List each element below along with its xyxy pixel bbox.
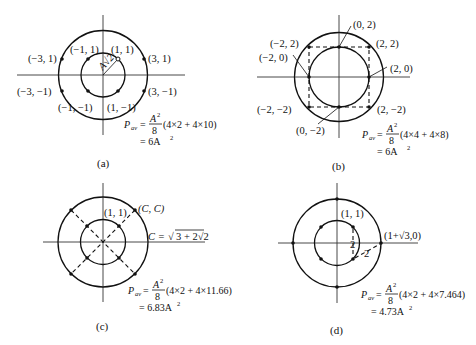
svg-text:8: 8 bbox=[388, 295, 393, 306]
leader-line bbox=[339, 26, 351, 47]
svg-text:P: P bbox=[361, 129, 368, 140]
panel-caption: (b) bbox=[332, 160, 345, 173]
point bbox=[85, 224, 89, 228]
point bbox=[291, 241, 295, 245]
formula: P av = A 2 8 (4×4 + 4×8) = 6A 2 bbox=[361, 121, 449, 157]
point-label: (−2, 0) bbox=[259, 52, 288, 64]
point-label: (−2, −2) bbox=[257, 104, 292, 116]
point bbox=[142, 57, 146, 61]
point bbox=[351, 225, 355, 229]
point-label: (1+√3,0) bbox=[384, 230, 422, 242]
point bbox=[319, 257, 323, 261]
svg-text:= 6A: = 6A bbox=[377, 146, 398, 157]
svg-text:= 4.73A: = 4.73A bbox=[371, 306, 405, 317]
point bbox=[367, 105, 371, 109]
distance-label: 2 bbox=[350, 239, 355, 250]
svg-text:2: 2 bbox=[409, 304, 412, 311]
point-label: (2, 2) bbox=[376, 38, 399, 50]
point-label: (−1, −1) bbox=[58, 102, 93, 114]
svg-text:2: 2 bbox=[393, 281, 396, 288]
point-label: (−3, 1) bbox=[28, 53, 57, 65]
panel-c: (1, 1) (C, C) C = √ 3 + 2√2 P av = A 2 8… bbox=[43, 183, 232, 333]
svg-text:P: P bbox=[360, 289, 367, 300]
point bbox=[133, 272, 137, 276]
svg-text:av: av bbox=[368, 294, 374, 301]
svg-text:C =: C = bbox=[148, 231, 165, 242]
point bbox=[60, 89, 64, 93]
svg-text:=: = bbox=[143, 285, 149, 296]
point-label: (C, C) bbox=[138, 203, 165, 215]
svg-text:av: av bbox=[131, 124, 137, 131]
distance-label: 2 bbox=[364, 248, 369, 259]
point-label: (1, 1) bbox=[341, 208, 364, 220]
point-label: (−1, 1) bbox=[70, 44, 99, 56]
svg-text:A: A bbox=[149, 113, 157, 124]
svg-text:2: 2 bbox=[160, 277, 163, 284]
svg-text:P: P bbox=[123, 119, 130, 130]
svg-text:= 6A: = 6A bbox=[140, 136, 161, 147]
panel-caption: (d) bbox=[330, 324, 343, 337]
point-label: (1, −1) bbox=[107, 102, 136, 114]
panel-d: 2 2 (1, 1) (1+√3,0) P av = A 2 8 (4×2 + … bbox=[278, 183, 465, 337]
svg-text:(4×2 + 4×10): (4×2 + 4×10) bbox=[163, 119, 217, 131]
svg-text:8: 8 bbox=[152, 125, 157, 136]
point bbox=[351, 257, 355, 261]
panel-caption: (c) bbox=[96, 320, 109, 333]
point bbox=[307, 105, 311, 109]
point bbox=[86, 89, 90, 93]
point-label: (1, 1) bbox=[111, 44, 134, 56]
panel-caption: (a) bbox=[97, 157, 110, 170]
svg-text:2: 2 bbox=[177, 300, 180, 307]
svg-text:2: 2 bbox=[407, 144, 410, 151]
svg-text:=: = bbox=[376, 289, 382, 300]
point-label: (3, −1) bbox=[148, 86, 177, 98]
point bbox=[116, 89, 120, 93]
svg-text:= 6.83A: = 6.83A bbox=[139, 302, 173, 313]
svg-text:(4×2 + 4×7.464): (4×2 + 4×7.464) bbox=[399, 289, 465, 301]
point-label: (0, 2) bbox=[353, 19, 376, 31]
svg-text:P: P bbox=[127, 285, 134, 296]
svg-text:=: = bbox=[140, 119, 146, 130]
svg-text:8: 8 bbox=[389, 135, 394, 146]
svg-text:=: = bbox=[377, 129, 383, 140]
point bbox=[319, 225, 323, 229]
formula: P av = A 2 8 (4×2 + 4×7.464) = 4.73A 2 bbox=[360, 281, 465, 317]
point bbox=[69, 272, 73, 276]
point-label: (0, −2) bbox=[296, 125, 325, 137]
point bbox=[117, 224, 121, 228]
point-label: (3, 1) bbox=[148, 53, 171, 65]
svg-text:√: √ bbox=[168, 231, 174, 242]
constant-c-definition: C = √ 3 + 2√2 bbox=[148, 230, 209, 242]
svg-text:A: A bbox=[152, 279, 160, 290]
point bbox=[60, 57, 64, 61]
svg-text:8: 8 bbox=[155, 291, 160, 302]
signal-constellations-figure: (−1, 1) (1, 1) (−1, −1) (1, −1) (−3, 1) … bbox=[0, 0, 476, 345]
svg-text:A: A bbox=[385, 283, 393, 294]
point-label: (2, −2) bbox=[377, 104, 406, 116]
point bbox=[85, 256, 89, 260]
point bbox=[86, 57, 90, 61]
point bbox=[367, 45, 371, 49]
point-label: (−3, −1) bbox=[17, 86, 52, 98]
point bbox=[335, 285, 339, 289]
svg-text:2: 2 bbox=[394, 121, 397, 128]
svg-text:3 + 2√2: 3 + 2√2 bbox=[176, 231, 209, 242]
svg-text:av: av bbox=[369, 134, 375, 141]
point bbox=[335, 197, 339, 201]
point-label: (2, 0) bbox=[390, 63, 413, 75]
point bbox=[69, 208, 73, 212]
point bbox=[133, 208, 137, 212]
svg-text:(4×2 + 4×11.66): (4×2 + 4×11.66) bbox=[166, 285, 232, 297]
svg-text:A: A bbox=[386, 123, 394, 134]
leader-line bbox=[369, 67, 387, 77]
svg-text:2: 2 bbox=[170, 134, 173, 141]
formula: P av = A 2 8 (4×2 + 4×10) = 6A 2 bbox=[123, 111, 217, 147]
point-open bbox=[116, 57, 120, 61]
panel-b: (0, 2) (−2, 2) (2, 2) (−2, 0) (2, 0) (−2… bbox=[257, 15, 449, 173]
svg-text:2: 2 bbox=[157, 111, 160, 118]
svg-text:av: av bbox=[135, 290, 141, 297]
svg-text:(4×4 + 4×8): (4×4 + 4×8) bbox=[400, 129, 449, 141]
point-label: (1, 1) bbox=[104, 207, 127, 219]
point-label: (−2, 2) bbox=[270, 38, 299, 50]
point bbox=[142, 89, 146, 93]
